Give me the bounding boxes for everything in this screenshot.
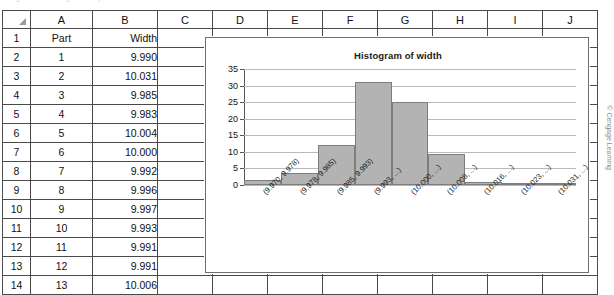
- cell-part[interactable]: 11: [31, 238, 93, 257]
- y-tick-label: 20: [228, 114, 238, 124]
- column-header-h[interactable]: H: [433, 11, 488, 29]
- row-header[interactable]: 4: [3, 86, 31, 105]
- y-tick-label: 30: [228, 81, 238, 91]
- cell-part[interactable]: 4: [31, 105, 93, 124]
- cell-width[interactable]: 9.993: [93, 219, 158, 238]
- select-all-corner[interactable]: [3, 11, 31, 29]
- cell-b1[interactable]: Width: [93, 29, 158, 48]
- row-header[interactable]: 7: [3, 143, 31, 162]
- cell-j[interactable]: [543, 276, 598, 295]
- row-header[interactable]: 8: [3, 162, 31, 181]
- cell-width[interactable]: 9.996: [93, 181, 158, 200]
- y-tick: [240, 119, 244, 120]
- cell-width[interactable]: 10.004: [93, 124, 158, 143]
- cell-width[interactable]: 9.983: [93, 105, 158, 124]
- y-tick-label: 0: [233, 180, 238, 190]
- row-header[interactable]: 2: [3, 48, 31, 67]
- top-caption-strip: Figure — histogram of part widths: [0, 0, 614, 9]
- y-tick: [240, 135, 244, 136]
- column-header-i[interactable]: I: [488, 11, 543, 29]
- cell-width[interactable]: 9.985: [93, 86, 158, 105]
- cell-width[interactable]: 9.997: [93, 200, 158, 219]
- y-tick: [240, 185, 244, 186]
- row-header[interactable]: 12: [3, 238, 31, 257]
- column-header-b[interactable]: B: [93, 11, 158, 29]
- cell-width[interactable]: 9.991: [93, 238, 158, 257]
- column-header-row: A B C D E F G H I J: [3, 11, 598, 29]
- histogram-chart[interactable]: Histogram of width 05101520253035 (9.970…: [205, 37, 589, 273]
- cell-width[interactable]: 9.992: [93, 162, 158, 181]
- cell-f[interactable]: [323, 276, 378, 295]
- y-tick-label: 35: [228, 64, 238, 74]
- cell-part[interactable]: 2: [31, 67, 93, 86]
- row-header[interactable]: 9: [3, 181, 31, 200]
- cell-width[interactable]: 9.991: [93, 257, 158, 276]
- cell-e[interactable]: [268, 276, 323, 295]
- row-header[interactable]: 11: [3, 219, 31, 238]
- cell-part[interactable]: 9: [31, 200, 93, 219]
- cell-part[interactable]: 12: [31, 257, 93, 276]
- y-tick-label: 15: [228, 130, 238, 140]
- column-header-e[interactable]: E: [268, 11, 323, 29]
- column-header-d[interactable]: D: [213, 11, 268, 29]
- cell-width[interactable]: 10.006: [93, 276, 158, 295]
- column-header-g[interactable]: G: [378, 11, 433, 29]
- cell-g[interactable]: [378, 276, 433, 295]
- table-row[interactable]: 14 13 10.006: [3, 276, 598, 295]
- y-tick: [240, 152, 244, 153]
- cell-width[interactable]: 9.990: [93, 48, 158, 67]
- column-header-c[interactable]: C: [158, 11, 213, 29]
- cell-width[interactable]: 10.031: [93, 67, 158, 86]
- chart-plot-area: 05101520253035 (9.970, 9.978)(9.978, 9.9…: [244, 69, 576, 185]
- cell-part[interactable]: 10: [31, 219, 93, 238]
- cell-part[interactable]: 7: [31, 162, 93, 181]
- row-header[interactable]: 10: [3, 200, 31, 219]
- top-caption-text: Figure — histogram of part widths: [8, 0, 141, 2]
- row-header[interactable]: 14: [3, 276, 31, 295]
- copyright-notice: © Cengage Learning: [606, 105, 613, 170]
- select-all-triangle-icon: [19, 18, 26, 25]
- y-tick: [240, 69, 244, 70]
- y-tick: [240, 86, 244, 87]
- cell-part[interactable]: 3: [31, 86, 93, 105]
- column-header-a[interactable]: A: [31, 11, 93, 29]
- cell-part[interactable]: 6: [31, 143, 93, 162]
- row-header[interactable]: 5: [3, 105, 31, 124]
- cell-c[interactable]: [158, 276, 213, 295]
- row-header[interactable]: 13: [3, 257, 31, 276]
- column-header-j[interactable]: J: [543, 11, 598, 29]
- chart-title: Histogram of width: [206, 50, 590, 61]
- column-header-f[interactable]: F: [323, 11, 378, 29]
- gridline: [244, 69, 576, 70]
- cell-i[interactable]: [488, 276, 543, 295]
- y-tick: [240, 102, 244, 103]
- gridline: [244, 86, 576, 87]
- y-tick: [240, 168, 244, 169]
- cell-part[interactable]: 5: [31, 124, 93, 143]
- cell-d[interactable]: [213, 276, 268, 295]
- row-header[interactable]: 3: [3, 67, 31, 86]
- y-tick-label: 10: [228, 147, 238, 157]
- y-tick-label: 5: [233, 163, 238, 173]
- row-header[interactable]: 1: [3, 29, 31, 48]
- cell-h[interactable]: [433, 276, 488, 295]
- row-header[interactable]: 6: [3, 124, 31, 143]
- y-tick-label: 25: [228, 97, 238, 107]
- cell-width[interactable]: 10.000: [93, 143, 158, 162]
- cell-part[interactable]: 8: [31, 181, 93, 200]
- cell-part[interactable]: 13: [31, 276, 93, 295]
- cell-part[interactable]: 1: [31, 48, 93, 67]
- cell-a1[interactable]: Part: [31, 29, 93, 48]
